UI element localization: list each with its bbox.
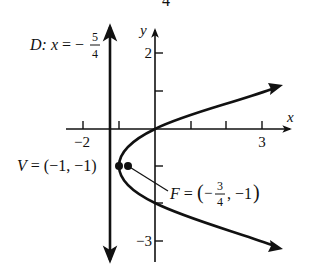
parabola-arrow-lower xyxy=(268,240,283,252)
svg-text:5: 5 xyxy=(92,30,98,44)
y-axis-label: y xyxy=(138,22,147,38)
x-tick-label-neg2: −2 xyxy=(74,134,90,150)
svg-text:4: 4 xyxy=(217,195,223,209)
svg-text:4: 4 xyxy=(92,47,98,61)
focus-label: F = ( − 3 4 , −1 ) xyxy=(169,179,260,209)
x-axis-label: x xyxy=(286,109,294,125)
focus-leader-line xyxy=(128,166,168,191)
parabola-curve xyxy=(119,89,272,245)
top-fragment-text: 4 xyxy=(162,0,170,9)
svg-text:, −1: , −1 xyxy=(227,185,252,202)
parabola-diagram: 4 x y −2 3 2 −3 D: x = − 5 4 xyxy=(0,0,313,275)
y-tick-label-2: 2 xyxy=(145,45,153,61)
x-tick-label-3: 3 xyxy=(258,134,266,150)
svg-text:−: − xyxy=(204,185,212,201)
svg-text:): ) xyxy=(253,181,260,204)
directrix-label: D: x = − 5 4 xyxy=(29,30,100,61)
y-tick-label-neg3: −3 xyxy=(136,233,152,249)
svg-text:F =: F = xyxy=(169,185,193,202)
svg-text:(: ( xyxy=(197,181,204,204)
vertex-point xyxy=(115,162,123,170)
svg-text:D: x = −: D: x = − xyxy=(29,36,84,53)
svg-text:3: 3 xyxy=(217,179,223,193)
y-ticks xyxy=(155,53,163,241)
vertex-label: V = (−1, −1) xyxy=(17,157,97,175)
